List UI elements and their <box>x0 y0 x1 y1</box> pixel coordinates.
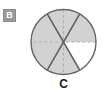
circle-caption-label: C <box>29 78 98 90</box>
part-label-badge: B <box>3 9 16 22</box>
fraction-circle-svg <box>29 7 98 77</box>
part-label-text: B <box>6 11 13 20</box>
fraction-circle-diagram <box>29 7 98 77</box>
figure-panel: B C <box>0 0 105 98</box>
